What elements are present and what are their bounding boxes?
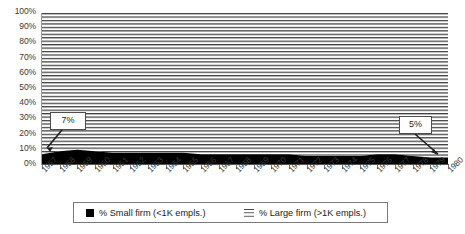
legend-label-small-firm: % Small firm (<1K empls.): [99, 208, 205, 218]
y-axis-line: [41, 13, 42, 165]
y-tick-label: 30%: [0, 113, 36, 122]
x-axis-labels: 1957195819591960196119621963196419651966…: [42, 168, 449, 198]
area-series-svg: [42, 13, 448, 165]
y-tick-label: 90%: [0, 22, 36, 31]
y-tick-label: 70%: [0, 53, 36, 62]
legend-label-large-firm: % Large firm (>1K empls.): [259, 208, 366, 218]
y-tick-label: 0%: [0, 159, 36, 168]
y-tick-label: 80%: [0, 37, 36, 46]
y-tick-label: 60%: [0, 68, 36, 77]
y-tick-label: 10%: [0, 144, 36, 153]
y-tick-label: 20%: [0, 129, 36, 138]
y-tick-label: 100%: [0, 7, 36, 16]
legend: % Small firm (<1K empls.) % Large firm (…: [73, 202, 388, 223]
y-tick-label: 50%: [0, 83, 36, 92]
plot-area: [42, 13, 448, 165]
y-tick-label: 40%: [0, 98, 36, 107]
legend-item-small-firm: % Small firm (<1K empls.): [86, 203, 205, 222]
solid-black-square-icon: [86, 209, 94, 217]
x-tick-label: 1980: [446, 155, 465, 174]
callout-end-value: 5%: [399, 116, 432, 134]
legend-item-large-firm: % Large firm (>1K empls.): [244, 203, 366, 222]
callout-start-value: 7%: [50, 112, 86, 130]
series-area-large-firm: [42, 13, 448, 157]
horizontal-lines-icon: [244, 209, 254, 217]
y-axis: 100% 90% 80% 70% 60% 50% 40% 30% 20% 10%…: [0, 7, 36, 167]
